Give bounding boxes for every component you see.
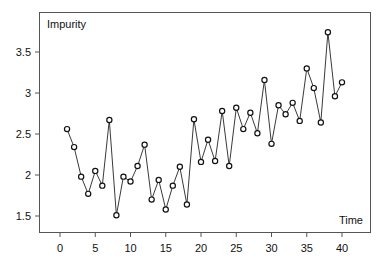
data-point-marker [205,137,210,142]
data-point-marker [332,94,337,99]
data-point-marker [79,174,84,179]
data-point-marker [142,142,147,147]
x-tick-label: 40 [336,242,348,254]
data-point-marker [227,163,232,168]
x-tick-label: 5 [92,242,98,254]
data-point-marker [283,112,288,117]
y-axis-annotation: Impurity [47,18,87,30]
data-point-marker [128,179,133,184]
data-point-marker [100,183,105,188]
y-axis: 1.522.533.5 [16,46,40,222]
data-point-marker [262,77,267,82]
series-markers [64,30,344,218]
x-tick-label: 20 [195,242,207,254]
data-point-marker [93,168,98,173]
data-point-marker [163,207,168,212]
data-point-marker [170,183,175,188]
data-point-marker [318,120,323,125]
data-point-marker [213,158,218,163]
x-tick-label: 0 [57,242,63,254]
y-tick-label: 3.5 [16,46,31,58]
data-point-marker [304,66,309,71]
data-point-marker [255,131,260,136]
y-tick-label: 2.5 [16,128,31,140]
data-point-marker [339,80,344,85]
impurity-time-series-chart: 1.522.533.5 0510152025303540 Impurity Ti… [0,0,383,270]
data-point-marker [198,159,203,164]
x-axis-annotation: Time [339,214,363,226]
data-point-marker [191,117,196,122]
data-point-marker [220,108,225,113]
data-point-marker [72,145,77,150]
data-point-marker [86,191,91,196]
data-point-marker [107,117,112,122]
data-point-marker [177,164,182,169]
x-tick-label: 25 [230,242,242,254]
data-point-marker [156,177,161,182]
x-tick-label: 35 [301,242,313,254]
x-tick-label: 15 [160,242,172,254]
data-point-marker [149,197,154,202]
y-tick-label: 3 [25,87,31,99]
x-tick-label: 30 [265,242,277,254]
x-axis: 0510152025303540 [57,233,348,255]
y-tick-label: 1.5 [16,210,31,222]
data-point-marker [64,126,69,131]
data-point-marker [290,100,295,105]
x-tick-label: 10 [124,242,136,254]
data-point-marker [234,105,239,110]
data-point-marker [325,30,330,35]
data-point-marker [311,85,316,90]
data-point-marker [114,213,119,218]
data-point-marker [135,163,140,168]
data-point-marker [241,126,246,131]
data-point-marker [276,103,281,108]
data-point-marker [269,141,274,146]
data-point-marker [248,110,253,115]
data-point-marker [297,118,302,123]
data-point-marker [121,174,126,179]
data-point-marker [184,202,189,207]
y-tick-label: 2 [25,169,31,181]
